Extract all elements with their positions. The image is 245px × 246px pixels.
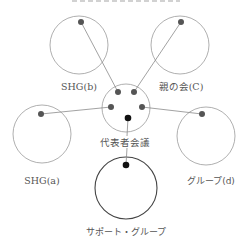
council-dot-3: [108, 104, 114, 110]
council-dot-2: [131, 89, 137, 95]
shg-b-label: SHG(b): [61, 81, 97, 92]
group-d-circle: [177, 107, 235, 165]
shg-b-dot: [78, 19, 84, 25]
group-d-label: グループ(d): [187, 174, 235, 187]
shg-a-label: SHG(a): [24, 175, 59, 186]
network-diagram: SHG(b) 親の会(C) 代表者会議 SHG(a) グループ(d) サポート・…: [0, 0, 245, 246]
shg-b-circle: [50, 16, 108, 74]
edge-shg-a-council: [41, 107, 111, 114]
diagram-canvas: [0, 0, 245, 246]
support-dot: [123, 162, 130, 169]
group-d-dot: [199, 111, 205, 117]
council-dot-4: [139, 104, 145, 110]
council-label: 代表者会議: [100, 135, 150, 149]
council-dot-1: [115, 89, 121, 95]
shg-a-dot: [38, 111, 44, 117]
council-key-dot: [125, 115, 132, 122]
parents-dot: [178, 19, 184, 25]
support-group-label: サポート・グループ: [86, 225, 166, 238]
parents-label: 親の会(C): [159, 79, 204, 93]
